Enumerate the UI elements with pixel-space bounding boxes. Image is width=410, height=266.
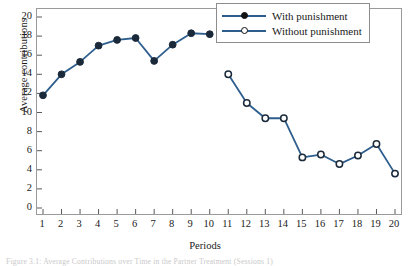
x-tick-label: 7 <box>143 219 163 230</box>
x-tick-label: 5 <box>106 219 126 230</box>
x-tick-label: 11 <box>217 219 237 230</box>
legend-label: With punishment <box>272 10 348 22</box>
x-tick-label: 16 <box>310 219 330 230</box>
y-tick-label: 6 <box>6 145 32 156</box>
legend-label: Without punishment <box>272 25 362 37</box>
legend-marker-filled-circle-icon <box>222 10 266 22</box>
x-tick-label: 9 <box>180 219 200 230</box>
x-tick-label: 13 <box>254 219 274 230</box>
y-tick-label: 12 <box>6 87 32 98</box>
x-axis-label: Periods <box>0 240 410 251</box>
y-tick-label: 18 <box>6 30 32 41</box>
x-tick-label: 6 <box>125 219 145 230</box>
y-tick-label: 20 <box>6 11 32 22</box>
x-tick-label: 20 <box>384 219 404 230</box>
y-tick-label: 10 <box>6 107 32 118</box>
x-tick-label: 14 <box>273 219 293 230</box>
figure-caption: Figure 3.1: Average Contributions over T… <box>6 257 406 266</box>
x-tick-label: 15 <box>291 219 311 230</box>
x-tick-label: 18 <box>347 219 367 230</box>
y-tick-label: 4 <box>6 164 32 175</box>
x-tick-label: 2 <box>51 219 71 230</box>
x-tick-label: 3 <box>69 219 89 230</box>
x-tick-label: 17 <box>328 219 348 230</box>
x-tick-label: 8 <box>162 219 182 230</box>
y-tick-label: 14 <box>6 68 32 79</box>
figure-container: Average contributions 02468101214161820 … <box>0 0 410 266</box>
legend-marker-open-circle-icon <box>222 25 266 37</box>
x-tick-label: 10 <box>199 219 219 230</box>
y-tick-label: 8 <box>6 126 32 137</box>
x-tick-label: 19 <box>365 219 385 230</box>
chart-legend: With punishment Without punishment <box>216 3 370 43</box>
x-tick-label: 12 <box>236 219 256 230</box>
y-tick-label: 0 <box>6 202 32 213</box>
x-tick-label: 4 <box>88 219 108 230</box>
legend-item-with-punishment: With punishment <box>222 8 362 23</box>
x-tick-label: 1 <box>32 219 52 230</box>
y-tick-label: 16 <box>6 49 32 60</box>
y-tick-label: 2 <box>6 183 32 194</box>
legend-item-without-punishment: Without punishment <box>222 23 362 38</box>
